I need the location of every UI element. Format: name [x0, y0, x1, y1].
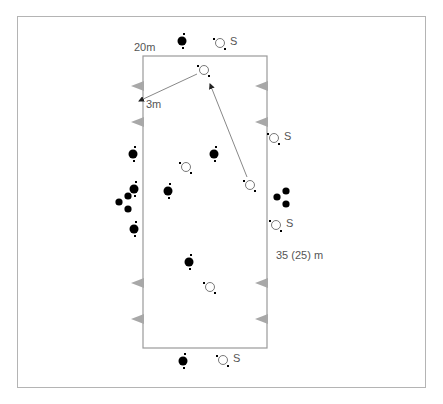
dark-player-icon [129, 146, 138, 162]
dark-player-icon [179, 353, 188, 369]
light-team-group: SSSS [179, 35, 293, 367]
dark-player-icon [130, 221, 139, 237]
server-label: S [233, 352, 240, 364]
cone-group [131, 81, 268, 324]
ball-icon [282, 200, 289, 207]
length-label: 35 (25) m [276, 249, 323, 261]
width-label: 20m [134, 41, 155, 53]
light-player-icon: S [216, 352, 240, 367]
cone-icon [255, 278, 268, 288]
run-arrow [210, 84, 247, 177]
light-player-icon [243, 180, 256, 192]
cone-icon [131, 117, 144, 127]
light-player-icon: S [269, 217, 293, 232]
server-label: S [286, 217, 293, 229]
distance-label: 3m [146, 98, 161, 110]
server-label: S [284, 130, 291, 142]
ball-icon [124, 205, 131, 212]
ball-icon [115, 198, 122, 205]
ball-icon [124, 192, 131, 199]
cone-icon [255, 117, 268, 127]
dark-player-icon [178, 33, 187, 49]
cone-icon [255, 81, 268, 91]
ball-icon [282, 187, 289, 194]
light-player-icon: S [213, 35, 237, 50]
drill-diagram: SSSS 20m 3m 35 (25) m [0, 0, 443, 404]
pass-arrow [139, 74, 197, 101]
light-player-icon [179, 162, 192, 174]
dark-player-icon [210, 146, 219, 162]
cone-icon [131, 314, 144, 324]
dark-player-icon [185, 254, 194, 270]
light-player-icon: S [267, 130, 291, 145]
light-player-icon [203, 282, 216, 294]
cone-icon [255, 314, 268, 324]
ball-icon [273, 193, 280, 200]
cone-icon [131, 278, 144, 288]
balls-group [115, 187, 289, 212]
cone-icon [131, 81, 144, 91]
dark-player-icon [164, 183, 173, 199]
server-label: S [230, 35, 237, 47]
field-boundary [143, 56, 267, 348]
light-player-icon [197, 65, 210, 77]
